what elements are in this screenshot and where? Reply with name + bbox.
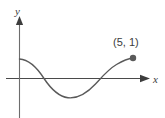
arrow-right-icon (140, 75, 150, 82)
arrow-up-icon (16, 16, 23, 25)
endpoint-coordinate-label: (5, 1) (113, 37, 139, 48)
graph-figure: y x (5, 1) (0, 0, 165, 118)
x-axis-label: x (153, 74, 158, 85)
graph-canvas (0, 0, 165, 118)
y-axis-label: y (15, 6, 20, 17)
endpoint-marker (130, 55, 136, 61)
